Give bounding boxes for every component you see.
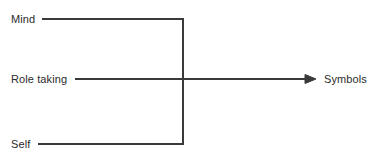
node-label-symbols: Symbols [324, 74, 367, 85]
arrowhead-icon [305, 75, 316, 84]
connector-group [38, 18, 306, 145]
node-label-mind: Mind [11, 14, 35, 25]
node-label-role-taking: Role taking [11, 74, 67, 85]
node-label-self: Self [11, 139, 30, 150]
diagram-canvas: Mind Role taking Self Symbols [0, 0, 373, 162]
